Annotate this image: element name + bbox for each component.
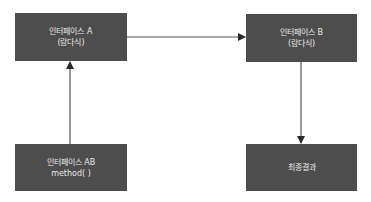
node-sublabel: (람다식) <box>288 38 315 49</box>
node-label: 인터페이스 B <box>280 27 323 38</box>
node-interface-b: 인터페이스 B (람다식) <box>246 14 357 62</box>
node-sublabel: (람다식) <box>57 37 84 48</box>
node-final-result: 최종결과 <box>246 144 357 191</box>
node-sublabel: method( ) <box>51 168 91 179</box>
node-interface-ab: 인터페이스 AB method( ) <box>15 144 127 191</box>
node-interface-a: 인터페이스 A (람다식) <box>15 13 127 61</box>
node-label: 인터페이스 AB <box>47 157 96 168</box>
node-label: 인터페이스 A <box>49 26 92 37</box>
node-label: 최종결과 <box>288 162 316 173</box>
